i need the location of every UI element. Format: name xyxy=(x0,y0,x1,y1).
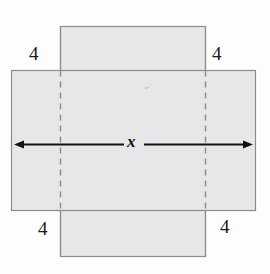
corner-label-top-right: 4 xyxy=(212,44,222,63)
corner-label-bottom-right: 4 xyxy=(220,217,230,236)
geometry-figure: 4 4 4 4 x xyxy=(0,0,270,274)
corner-label-bottom-left: 4 xyxy=(38,219,48,238)
corner-label-top-left: 4 xyxy=(29,44,39,63)
width-variable-label: x xyxy=(127,133,136,150)
